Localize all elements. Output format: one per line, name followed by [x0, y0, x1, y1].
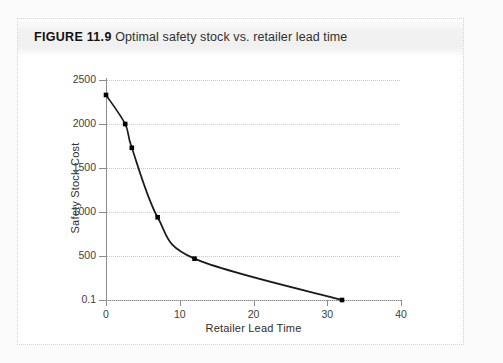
- y-tick: [99, 212, 106, 213]
- gridline-y: [107, 80, 400, 82]
- x-tick-label: 0: [86, 308, 126, 320]
- y-tick: [99, 80, 106, 81]
- gridline-y: [107, 124, 400, 126]
- y-tick: [99, 124, 106, 125]
- y-tick-label: 1500: [36, 161, 96, 173]
- y-tick-label: 1000: [36, 205, 96, 217]
- y-tick-label: 2000: [36, 117, 96, 129]
- x-tick: [254, 300, 255, 306]
- y-tick-label: 500: [36, 249, 96, 261]
- x-tick: [327, 300, 328, 306]
- x-axis-title: Retailer Lead Time: [106, 322, 401, 334]
- x-tick-label: 10: [160, 308, 200, 320]
- figure-page: FIGURE 11.9 Optimal safety stock vs. ret…: [0, 0, 503, 363]
- x-tick: [401, 300, 402, 306]
- x-tick-label: 40: [381, 308, 421, 320]
- y-tick: [99, 168, 106, 169]
- x-tick: [106, 300, 107, 306]
- y-tick-label: 2500: [36, 73, 96, 85]
- gridline-y: [107, 256, 400, 258]
- y-axis-title: Safety Stock Cost: [69, 108, 81, 268]
- y-tick: [99, 300, 106, 301]
- chart-plot-area: Safety Stock Cost Retailer Lead Time 0.1…: [0, 0, 503, 363]
- y-axis-line: [106, 78, 107, 300]
- x-tick: [180, 300, 181, 306]
- y-tick-label: 0.1: [36, 293, 96, 305]
- y-tick: [99, 256, 106, 257]
- x-tick-label: 20: [234, 308, 274, 320]
- gridline-y: [107, 168, 400, 170]
- data-point-marker: [155, 215, 160, 220]
- x-tick-label: 30: [307, 308, 347, 320]
- data-point-marker: [130, 145, 135, 150]
- gridline-y: [107, 212, 400, 214]
